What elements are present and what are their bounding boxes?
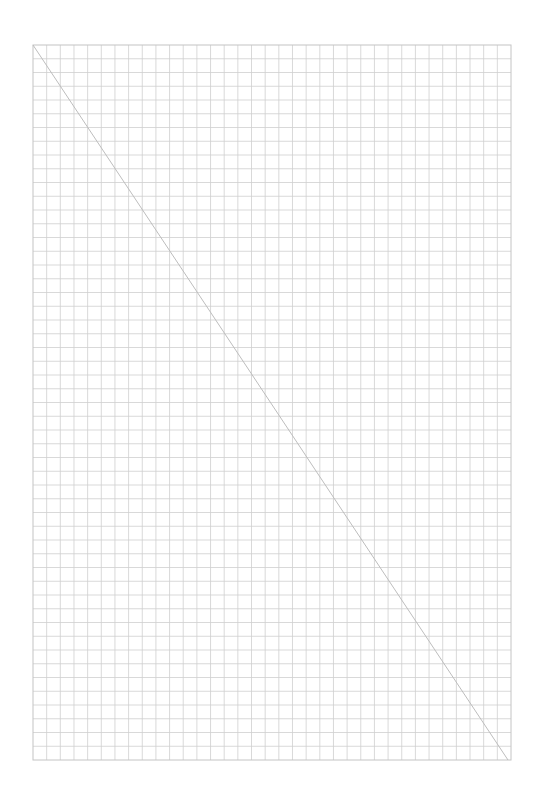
graph-paper-page xyxy=(0,0,544,798)
grid-canvas xyxy=(0,0,544,798)
